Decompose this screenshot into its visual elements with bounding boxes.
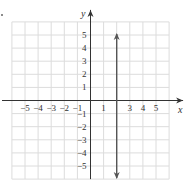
y-tick-label: 1 (82, 82, 87, 92)
y-tick-label: −1 (77, 109, 87, 119)
y-tick-label: 3 (82, 56, 87, 66)
y-axis-label: y (80, 8, 86, 19)
y-tick-label: 4 (82, 43, 87, 53)
x-tick-label: 3 (128, 103, 133, 113)
x-tick-label: −2 (60, 103, 70, 113)
x-axis-label: x (177, 104, 183, 115)
y-tick-label: 5 (82, 30, 87, 40)
x-tick-label: 5 (154, 103, 159, 113)
x-tick-label: −5 (20, 103, 30, 113)
x-tick-label: −3 (46, 103, 56, 113)
y-tick-label: −3 (77, 135, 87, 145)
y-tick-label: −4 (77, 148, 87, 158)
y-tick-label: 2 (82, 69, 87, 79)
y-tick-label: −5 (77, 161, 87, 171)
coordinate-plane: −5−4−3−2−1134554321−1−2−3−4−5 x y (0, 0, 196, 184)
x-tick-label: 4 (141, 103, 146, 113)
y-tick-label: −2 (77, 122, 87, 132)
graph-line-x-equals-2 (114, 33, 120, 179)
x-tick-label: −4 (33, 103, 43, 113)
x-tick-label: 1 (101, 103, 106, 113)
problem-bullet (1, 14, 3, 16)
